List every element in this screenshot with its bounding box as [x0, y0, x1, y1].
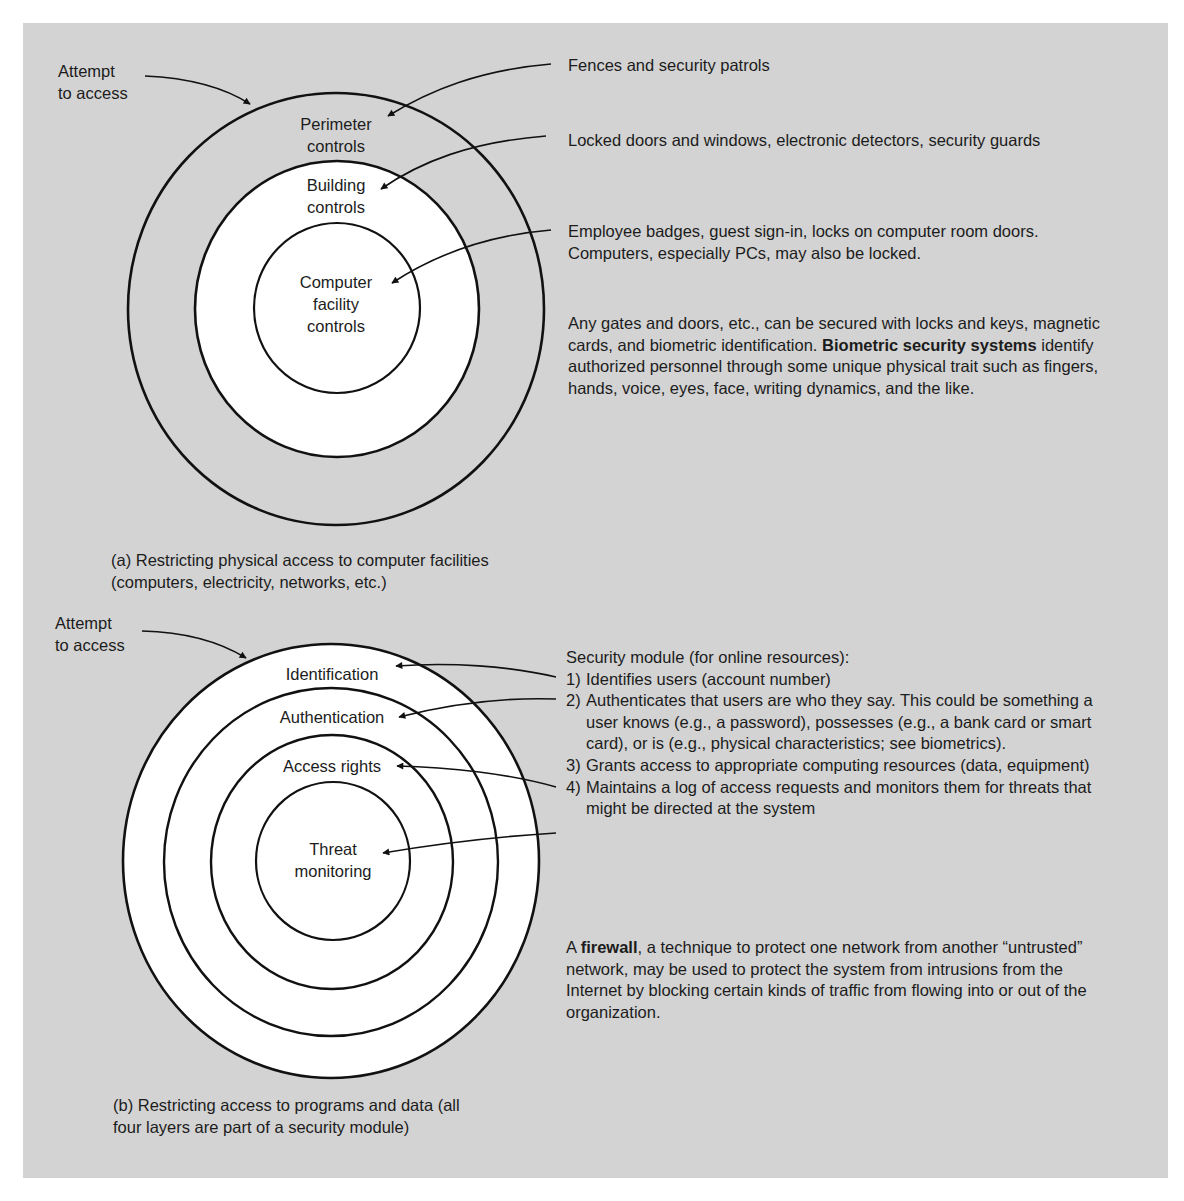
attempt-label-b: Attempt to access: [55, 612, 125, 656]
label-building-controls: Building controls: [276, 174, 396, 218]
list-item-2: 2) Authenticates that users are who they…: [566, 690, 1106, 755]
biometric-paragraph: Any gates and doors, etc., can be secure…: [568, 313, 1128, 399]
label-computer-facility-controls: Computer facility controls: [276, 271, 396, 337]
arrow-attempt-b: [142, 631, 246, 658]
list-item-3: 3) Grants access to appropriate computin…: [566, 755, 1106, 777]
caption-a: (a) Restricting physical access to compu…: [111, 549, 489, 593]
attempt-label-a: Attempt to access: [58, 60, 128, 104]
label-identification: Identification: [262, 663, 402, 685]
label-threat-monitoring: Threat monitoring: [273, 838, 393, 882]
list-title: Security module (for online resources):: [566, 647, 1106, 669]
arrow-attempt-a: [145, 76, 250, 104]
label-perimeter-controls: Perimeter controls: [276, 113, 396, 157]
annotation-locked-doors: Locked doors and windows, electronic det…: [568, 129, 1040, 151]
label-access-rights: Access rights: [262, 755, 402, 777]
annotation-employee-badges: Employee badges, guest sign-in, locks on…: [568, 220, 1039, 264]
security-module-list: Security module (for online resources): …: [566, 647, 1106, 820]
caption-b: (b) Restricting access to programs and d…: [113, 1094, 460, 1138]
biometric-term: Biometric security systems: [822, 336, 1037, 354]
firewall-paragraph: A firewall, a technique to protect one n…: [566, 937, 1111, 1023]
annotation-fences: Fences and security patrols: [568, 54, 770, 76]
list-item-4: 4) Maintains a log of access requests an…: [566, 777, 1106, 820]
label-authentication: Authentication: [262, 706, 402, 728]
firewall-term: firewall: [581, 938, 638, 956]
list-item-1: 1) Identifies users (account number): [566, 669, 1106, 691]
